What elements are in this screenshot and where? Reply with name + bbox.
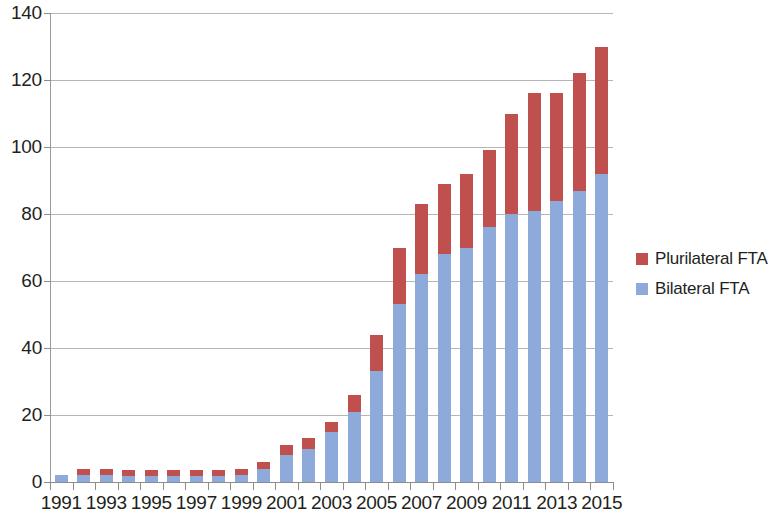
x-tick-mark-0: [50, 482, 51, 490]
bar-2015: [595, 47, 608, 483]
bar-segment-plurilateral-1992: [77, 469, 90, 476]
x-tick-mark-2: [95, 482, 96, 490]
bar-2011: [505, 114, 518, 483]
x-tick-mark-23: [568, 482, 569, 490]
legend-item-plurilateral[interactable]: Plurilateral FTA: [636, 246, 776, 272]
bar-2001: [280, 445, 293, 482]
bar-segment-plurilateral-2012: [528, 93, 541, 210]
bar-segment-bilateral-2015: [595, 174, 608, 482]
bar-segment-plurilateral-2014: [573, 73, 586, 190]
y-axis-label-100: 100: [4, 137, 42, 156]
bar-segment-bilateral-2009: [460, 248, 473, 483]
bar-segment-plurilateral-2008: [438, 184, 451, 254]
bar-segment-plurilateral-2009: [460, 174, 473, 248]
bar-segment-plurilateral-2015: [595, 47, 608, 174]
bar-segment-bilateral-2011: [505, 214, 518, 482]
x-axis-tick-marks: [50, 482, 613, 490]
x-tick-mark-6: [185, 482, 186, 490]
bar-segment-bilateral-1993: [100, 475, 113, 482]
x-tick-mark-17: [433, 482, 434, 490]
bar-1992: [77, 469, 90, 482]
bar-2012: [528, 93, 541, 482]
bar-segment-bilateral-2002: [302, 449, 315, 483]
chart-legend: Plurilateral FTABilateral FTA: [636, 246, 776, 306]
x-tick-mark-8: [230, 482, 231, 490]
bar-1994: [122, 470, 135, 482]
x-tick-mark-15: [388, 482, 389, 490]
bar-2007: [415, 204, 428, 482]
x-tick-mark-4: [140, 482, 141, 490]
bar-2002: [302, 438, 315, 482]
bar-segment-plurilateral-2010: [483, 150, 496, 227]
x-tick-mark-1: [73, 482, 74, 490]
bar-2009: [460, 174, 473, 482]
x-tick-mark-19: [478, 482, 479, 490]
legend-label: Bilateral FTA: [655, 279, 749, 299]
bar-segment-bilateral-1991: [55, 475, 68, 482]
bar-1995: [145, 470, 158, 482]
bar-segment-plurilateral-1999: [235, 469, 248, 476]
fta-stacked-bar-chart: 140120100806040200 199119931995199719992…: [0, 0, 776, 517]
bar-segment-bilateral-1999: [235, 475, 248, 482]
bar-2010: [483, 150, 496, 482]
x-tick-mark-12: [320, 482, 321, 490]
x-tick-mark-10: [275, 482, 276, 490]
x-tick-mark-16: [410, 482, 411, 490]
bar-1991: [55, 475, 68, 482]
bar-2005: [370, 335, 383, 482]
bar-segment-bilateral-2014: [573, 191, 586, 482]
bar-segment-bilateral-2005: [370, 371, 383, 482]
x-tick-mark-13: [343, 482, 344, 490]
bar-segment-bilateral-2013: [550, 201, 563, 482]
bar-segment-bilateral-2012: [528, 211, 541, 482]
bar-segment-bilateral-2000: [257, 469, 270, 482]
y-axis-label-0: 0: [4, 472, 42, 491]
bar-segment-plurilateral-2007: [415, 204, 428, 274]
bar-segment-bilateral-1992: [77, 475, 90, 482]
bar-series-group: [50, 13, 613, 482]
x-tick-mark-3: [118, 482, 119, 490]
y-axis-label-120: 120: [4, 70, 42, 89]
bar-segment-bilateral-2010: [483, 227, 496, 482]
x-tick-mark-24: [590, 482, 591, 490]
y-axis-label-60: 60: [4, 271, 42, 290]
bar-segment-plurilateral-2000: [257, 462, 270, 469]
bar-segment-bilateral-2008: [438, 254, 451, 482]
x-axis-label-2015: 2015: [572, 490, 632, 515]
y-axis-labels: 140120100806040200: [0, 0, 42, 517]
legend-item-bilateral[interactable]: Bilateral FTA: [636, 276, 776, 302]
bar-1999: [235, 469, 248, 482]
x-tick-mark-7: [208, 482, 209, 490]
bar-segment-plurilateral-2003: [325, 422, 338, 432]
bar-segment-bilateral-2001: [280, 455, 293, 482]
bar-2006: [393, 248, 406, 483]
y-axis-label-20: 20: [4, 405, 42, 424]
x-tick-mark-21: [523, 482, 524, 490]
bar-segment-bilateral-2006: [393, 304, 406, 482]
bar-1993: [100, 469, 113, 482]
x-tick-mark-20: [500, 482, 501, 490]
bar-2008: [438, 184, 451, 482]
bar-2000: [257, 462, 270, 482]
bar-segment-bilateral-2004: [348, 412, 361, 482]
bar-2013: [550, 93, 563, 482]
bar-segment-bilateral-2007: [415, 274, 428, 482]
bar-1998: [212, 470, 225, 482]
bar-segment-plurilateral-1993: [100, 469, 113, 476]
legend-swatch-bilateral: [636, 283, 648, 295]
bar-segment-plurilateral-2013: [550, 93, 563, 200]
x-tick-mark-22: [545, 482, 546, 490]
y-axis-label-40: 40: [4, 338, 42, 357]
bar-segment-plurilateral-2005: [370, 335, 383, 372]
bar-2003: [325, 422, 338, 482]
bar-1997: [190, 470, 203, 482]
bar-segment-plurilateral-2002: [302, 438, 315, 448]
x-tick-mark-14: [365, 482, 366, 490]
x-axis-labels: 1991199319951997199920012003200520072009…: [0, 490, 776, 517]
bar-2014: [573, 73, 586, 482]
x-tick-mark-5: [163, 482, 164, 490]
y-axis-label-80: 80: [4, 204, 42, 223]
bar-2004: [348, 395, 361, 482]
bar-1996: [167, 470, 180, 482]
x-tick-mark-18: [455, 482, 456, 490]
